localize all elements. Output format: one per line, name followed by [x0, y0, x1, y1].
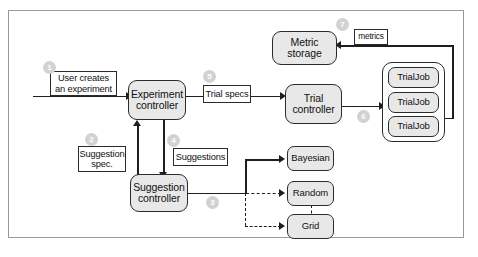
- connector-branch-to-bayesian: [245, 159, 281, 161]
- node-trialjob-2[interactable]: TrialJob: [388, 92, 439, 113]
- connector-trialjobs-feedback-vertical: [452, 45, 454, 119]
- badge-step-1: 1: [43, 61, 56, 74]
- node-suggestion-controller-line2: controller: [138, 193, 180, 204]
- arrowhead-branch-to-random: [279, 189, 285, 197]
- node-experiment-controller[interactable]: Experiment controller: [128, 80, 186, 120]
- connector-suggestionspec-vertical: [137, 126, 139, 181]
- connector-branch-to-grid: [245, 226, 281, 227]
- connector-suggestion-to-branch: [188, 193, 246, 195]
- badge-step-2: 2: [85, 133, 98, 146]
- connector-trialjobs-feedback-top: [340, 45, 453, 47]
- connector-branch-to-random: [246, 193, 281, 194]
- label-trial-specs: Trial specs: [203, 85, 251, 103]
- node-bayesian[interactable]: Bayesian: [287, 146, 334, 171]
- connector-branch-trunk-down: [245, 193, 246, 226]
- badge-step-5: 5: [203, 70, 216, 83]
- badge-step-6: 6: [357, 110, 370, 123]
- label-metrics: metrics: [354, 29, 388, 45]
- arrowhead-branch-to-bayesian: [279, 155, 285, 163]
- node-suggestion-controller[interactable]: Suggestion controller: [130, 174, 188, 212]
- badge-step-7: 7: [336, 18, 349, 31]
- badge-step-4: 4: [167, 134, 180, 147]
- node-experiment-controller-line2: controller: [136, 100, 178, 111]
- connector-branch-trunk-up: [245, 159, 247, 193]
- label-suggestion-spec-line1: Suggestion: [79, 149, 124, 159]
- label-suggestion-spec: Suggestion spec.: [78, 146, 126, 172]
- arrowhead-branch-to-grid: [279, 222, 285, 230]
- label-user-creates-line1: User creates: [58, 73, 109, 83]
- label-user-creates-experiment: User creates an experiment: [50, 71, 117, 96]
- arrowhead-suggestionspec-up: [133, 120, 141, 126]
- connector-suggestions-vertical: [163, 120, 165, 174]
- node-trial-controller-line2: controller: [292, 104, 334, 115]
- badge-step-3: 3: [206, 196, 219, 209]
- diagram-canvas: Experiment controller Trial controller S…: [0, 0, 478, 257]
- label-suggestions: Suggestions: [173, 148, 228, 166]
- node-random[interactable]: Random: [287, 181, 334, 206]
- label-user-creates-line2: an experiment: [55, 84, 112, 94]
- node-trialjob-1[interactable]: TrialJob: [388, 67, 439, 88]
- node-grid[interactable]: Grid: [287, 214, 334, 239]
- node-trialjob-3[interactable]: TrialJob: [388, 116, 439, 137]
- label-suggestion-spec-line2: spec.: [91, 159, 112, 169]
- connector-trial-to-trialjobs: [342, 106, 382, 108]
- node-trial-controller[interactable]: Trial controller: [285, 84, 342, 124]
- node-metric-storage[interactable]: Metric storage: [272, 31, 337, 65]
